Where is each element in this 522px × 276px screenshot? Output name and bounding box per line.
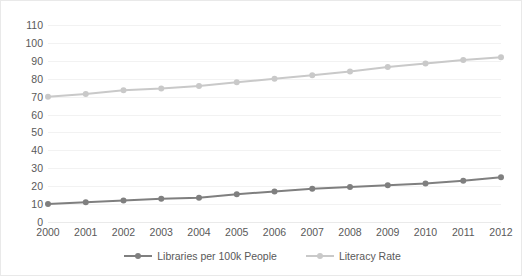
- x-axis-tick-labels: 2000200120022003200420052006200720082009…: [48, 227, 501, 243]
- x-axis-tick-label: 2008: [338, 227, 361, 238]
- gridline: [48, 222, 501, 223]
- data-point-marker: [423, 180, 429, 186]
- plot-area: [48, 25, 501, 222]
- x-axis-tick-label: 2002: [112, 227, 135, 238]
- data-point-marker: [460, 178, 466, 184]
- x-axis-tick-label: 2009: [376, 227, 399, 238]
- data-point-marker: [385, 64, 391, 70]
- data-point-marker: [234, 79, 240, 85]
- data-point-marker: [347, 69, 353, 75]
- x-axis-tick-label: 2001: [74, 227, 97, 238]
- data-point-marker: [83, 199, 89, 205]
- chart-legend: Libraries per 100k PeopleLiteracy Rate: [1, 251, 522, 262]
- legend-entry[interactable]: Literacy Rate: [305, 251, 401, 262]
- legend-label: Literacy Rate: [339, 251, 401, 262]
- y-axis-tick-label: 10: [31, 199, 43, 210]
- series-layer: [48, 25, 501, 222]
- x-axis-tick-label: 2006: [263, 227, 286, 238]
- legend-marker-icon: [123, 251, 153, 261]
- data-point-marker: [158, 86, 164, 92]
- legend-label: Libraries per 100k People: [157, 251, 277, 262]
- legend-entry[interactable]: Libraries per 100k People: [123, 251, 277, 262]
- y-axis-tick-label: 50: [31, 127, 43, 138]
- y-axis-tick-labels: 0102030405060708090100110: [1, 25, 43, 222]
- data-point-marker: [385, 182, 391, 188]
- data-point-marker: [158, 196, 164, 202]
- data-point-marker: [83, 91, 89, 97]
- x-axis-tick-label: 2012: [489, 227, 512, 238]
- data-point-marker: [272, 76, 278, 82]
- data-point-marker: [498, 174, 504, 180]
- data-series: [45, 54, 504, 99]
- y-axis-tick-label: 80: [31, 73, 43, 84]
- y-axis-tick-label: 110: [26, 20, 43, 31]
- y-axis-tick-label: 70: [31, 91, 43, 102]
- data-point-marker: [272, 189, 278, 195]
- x-axis-tick-label: 2003: [150, 227, 173, 238]
- data-point-marker: [309, 72, 315, 78]
- data-series: [45, 174, 504, 207]
- y-axis-tick-label: 90: [31, 56, 43, 67]
- data-point-marker: [498, 54, 504, 60]
- data-point-marker: [45, 201, 51, 207]
- data-point-marker: [234, 191, 240, 197]
- data-point-marker: [121, 87, 127, 93]
- y-axis-tick-label: 40: [31, 145, 43, 156]
- y-axis-tick-label: 100: [25, 38, 43, 49]
- data-point-marker: [45, 94, 51, 100]
- data-point-marker: [423, 61, 429, 67]
- data-point-marker: [196, 195, 202, 201]
- x-axis-tick-label: 2004: [187, 227, 210, 238]
- legend-marker-icon: [305, 251, 335, 261]
- data-point-marker: [460, 57, 466, 63]
- data-point-marker: [121, 198, 127, 204]
- x-axis-tick-label: 2005: [225, 227, 248, 238]
- data-point-marker: [309, 186, 315, 192]
- x-axis-tick-label: 2010: [414, 227, 437, 238]
- data-point-marker: [347, 184, 353, 190]
- data-point-marker: [196, 83, 202, 89]
- y-axis-tick-label: 60: [31, 109, 43, 120]
- y-axis-tick-label: 30: [31, 163, 43, 174]
- x-axis-tick-label: 2011: [452, 227, 475, 238]
- line-chart: 0102030405060708090100110 20002001200220…: [0, 0, 522, 276]
- y-axis-tick-label: 20: [31, 181, 43, 192]
- x-axis-tick-label: 2007: [301, 227, 324, 238]
- x-axis-tick-label: 2000: [36, 227, 59, 238]
